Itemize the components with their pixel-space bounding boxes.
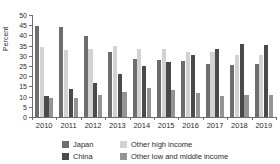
legend-item: Japan — [62, 140, 120, 149]
bar — [181, 61, 185, 117]
x-axis-tick — [154, 117, 155, 120]
legend-label: Other low and middle income — [131, 152, 228, 161]
bar — [113, 46, 117, 117]
x-axis-tick — [203, 117, 204, 120]
x-axis-tick-label: 2016 — [182, 121, 199, 130]
x-axis-tick-label: 2013 — [109, 121, 126, 130]
x-axis-tick-label: 2014 — [133, 121, 150, 130]
x-axis-tick-label: 2017 — [207, 121, 224, 130]
bar — [235, 55, 239, 117]
legend-label: Other high income — [131, 140, 192, 149]
bar — [142, 66, 146, 117]
bar — [64, 50, 68, 117]
x-axis-tick — [130, 117, 131, 120]
x-axis-tick — [81, 117, 82, 120]
bar — [240, 44, 244, 117]
legend-item: China — [62, 152, 120, 161]
x-axis-tick-label: 2011 — [61, 121, 77, 130]
chart-legend: JapanOther high incomeChinaOther low and… — [62, 138, 280, 162]
bar — [40, 47, 44, 117]
bar — [35, 26, 39, 117]
x-axis-tick-label: 2018 — [231, 121, 248, 130]
x-axis-tick — [252, 117, 253, 120]
bar — [269, 95, 273, 117]
bar-group — [157, 15, 176, 117]
y-axis-tick-label: 35 — [13, 42, 27, 49]
y-axis-tick-label: 10 — [13, 93, 27, 100]
bar — [122, 92, 126, 118]
bar — [118, 74, 122, 117]
bar — [74, 98, 78, 117]
plot-area: 05101520253035404550 2010201120122013201… — [32, 15, 276, 117]
y-axis-tick — [29, 107, 32, 108]
bar-chart-figure: Percent 05101520253035404550 20102011201… — [0, 0, 280, 164]
bar — [220, 96, 224, 117]
y-axis-tick-label: 50 — [13, 12, 27, 19]
bar-group — [133, 15, 152, 117]
y-axis-title: Percent — [0, 42, 11, 49]
bar — [133, 59, 137, 117]
x-axis-tick — [276, 117, 277, 120]
y-axis-tick-label: 5 — [13, 103, 27, 110]
bar — [93, 83, 97, 117]
legend-swatch — [62, 141, 69, 148]
legend-label: Japan — [73, 140, 93, 149]
x-axis-tick — [178, 117, 179, 120]
y-axis-tick-label: 15 — [13, 83, 27, 90]
bar — [259, 55, 263, 117]
x-axis-tick-label: 2012 — [85, 121, 102, 130]
y-axis-tick-label: 30 — [13, 52, 27, 59]
bar-group — [35, 15, 54, 117]
bar — [166, 62, 170, 117]
bar-group — [230, 15, 249, 117]
legend-item: Other high income — [120, 140, 280, 149]
bar-group — [181, 15, 200, 117]
bar — [210, 52, 214, 117]
legend-swatch — [120, 141, 127, 148]
x-axis-tick-label: 2015 — [158, 121, 175, 130]
bar — [191, 55, 195, 117]
y-axis-line — [32, 15, 33, 117]
x-axis-tick — [32, 117, 33, 120]
x-axis-tick — [105, 117, 106, 120]
legend-swatch — [120, 153, 127, 160]
bar — [59, 27, 63, 117]
y-axis-tick — [29, 35, 32, 36]
bar — [162, 49, 166, 117]
y-axis-tick-label: 20 — [13, 73, 27, 80]
x-axis-tick — [56, 117, 57, 120]
x-axis-tick-label: 2010 — [36, 121, 53, 130]
bar — [215, 49, 219, 117]
y-axis-tick — [29, 66, 32, 67]
bar — [69, 89, 73, 117]
legend-label: China — [73, 152, 93, 161]
y-axis-tick-label: 40 — [13, 32, 27, 39]
bar — [84, 36, 88, 117]
bar — [49, 98, 53, 117]
bar — [88, 49, 92, 117]
bar — [157, 60, 161, 117]
x-axis-tick — [227, 117, 228, 120]
y-axis-tick — [29, 76, 32, 77]
bar — [255, 64, 259, 117]
bar — [137, 49, 141, 117]
bar — [108, 52, 112, 117]
bar — [264, 45, 268, 117]
y-axis-tick — [29, 86, 32, 87]
bar — [206, 64, 210, 117]
y-axis-tick — [29, 56, 32, 57]
y-axis-tick-label: 0 — [13, 114, 27, 121]
bar — [230, 65, 234, 117]
bar-group — [206, 15, 225, 117]
bar-group — [255, 15, 274, 117]
bar — [186, 52, 190, 117]
y-axis-tick-label: 25 — [13, 63, 27, 70]
bar — [244, 95, 248, 117]
y-axis-tick — [29, 15, 32, 16]
bar — [44, 96, 48, 117]
bar-group — [59, 15, 78, 117]
bar — [147, 88, 151, 117]
bar — [171, 90, 175, 117]
bar-group — [84, 15, 103, 117]
y-axis-tick — [29, 97, 32, 98]
